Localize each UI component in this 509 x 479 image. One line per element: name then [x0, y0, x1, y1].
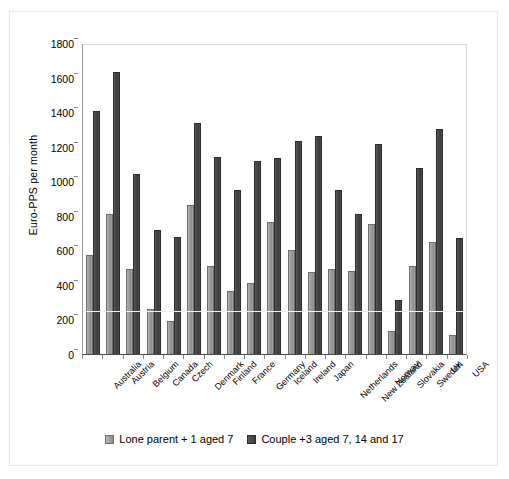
y-axis-tick-1600: 1600 — [51, 73, 74, 85]
bar-uk-series-2 — [436, 129, 443, 354]
x-tick-mark — [467, 355, 468, 359]
bar-group — [227, 45, 241, 354]
bar-group — [388, 45, 402, 354]
bar-canada-series-1 — [147, 309, 154, 354]
y-axis-tick-600: 600 — [56, 245, 74, 257]
bar-denmark-series-1 — [187, 205, 194, 354]
y-axis-tick-1400: 1400 — [51, 107, 74, 119]
gridline — [83, 311, 466, 312]
y-tick-mark — [74, 73, 78, 74]
y-tick-mark — [74, 38, 78, 39]
bar-austria-series-1 — [106, 214, 113, 354]
y-tick-mark — [74, 211, 78, 212]
bar-group — [207, 45, 221, 354]
y-tick-mark — [74, 280, 78, 281]
bar-finland-series-1 — [207, 266, 214, 354]
legend-label-2: Couple +3 aged 7, 14 and 17 — [261, 433, 403, 445]
bar-france-series-2 — [234, 190, 241, 354]
bar-group — [449, 45, 463, 354]
y-axis-tick-400: 400 — [56, 280, 74, 292]
bar-iceland-series-2 — [274, 158, 281, 354]
bar-group — [368, 45, 382, 354]
bar-finland-series-2 — [214, 157, 221, 354]
bar-group — [167, 45, 181, 354]
series-2-swatch — [247, 435, 256, 444]
bar-denmark-series-2 — [194, 123, 201, 354]
bar-slovakia-series-2 — [395, 300, 402, 354]
bar-iceland-series-1 — [267, 222, 274, 354]
bar-norway-series-2 — [375, 144, 382, 354]
y-tick-mark — [74, 314, 78, 315]
bar-ireland-series-1 — [288, 250, 295, 354]
y-axis-tick-1000: 1000 — [51, 176, 74, 188]
y-axis-tick-0: 0 — [68, 349, 74, 361]
bar-germany-series-2 — [254, 161, 261, 355]
bar-group — [187, 45, 201, 354]
y-axis-tick-1200: 1200 — [51, 142, 74, 154]
y-tick-mark — [74, 245, 78, 246]
x-axis-label-usa: USA — [471, 359, 491, 379]
y-tick-mark — [74, 176, 78, 177]
bar-group — [328, 45, 342, 354]
plot-area — [82, 44, 467, 355]
bar-slovakia-series-1 — [388, 331, 395, 354]
bar-belgium-series-2 — [133, 174, 140, 354]
bar-sweden-series-2 — [416, 168, 423, 354]
legend-label-1: Lone parent + 1 aged 7 — [119, 433, 233, 445]
plot-wrapper: Euro-PPS per month 180016001400120010008… — [10, 12, 499, 372]
y-axis-tick-200: 200 — [56, 314, 74, 326]
bar-ireland-series-2 — [295, 141, 302, 354]
bar-netherlands-series-2 — [335, 190, 342, 354]
bar-chart-figure: Euro-PPS per month 180016001400120010008… — [9, 11, 498, 466]
bar-norway-series-1 — [368, 224, 375, 354]
bar-groups — [83, 45, 466, 354]
bar-japan-series-2 — [315, 136, 322, 354]
y-tick-mark — [74, 107, 78, 108]
bar-group — [86, 45, 100, 354]
legend-item-1[interactable]: Lone parent + 1 aged 7 — [105, 433, 233, 445]
bar-usa-series-2 — [456, 238, 463, 354]
bar-new-zealand-series-1 — [348, 271, 355, 354]
bar-czech-series-2 — [174, 237, 181, 354]
y-axis-tick-800: 800 — [56, 211, 74, 223]
x-axis-category-labels: AustraliaAustriaBelgiumCanadaCzechDenmar… — [82, 359, 467, 421]
bar-australia-series-1 — [86, 255, 93, 354]
y-axis-tick-1800: 1800 — [51, 38, 74, 50]
bar-france-series-1 — [227, 291, 234, 354]
bar-czech-series-1 — [167, 321, 174, 354]
chart-legend: Lone parent + 1 aged 7Couple +3 aged 7, … — [10, 424, 499, 454]
bar-sweden-series-1 — [409, 266, 416, 354]
series-1-swatch — [105, 435, 114, 444]
bar-group — [247, 45, 261, 354]
legend-item-2[interactable]: Couple +3 aged 7, 14 and 17 — [247, 433, 403, 445]
bar-group — [308, 45, 322, 354]
bar-usa-series-1 — [449, 335, 456, 354]
y-tick-mark — [74, 142, 78, 143]
bar-germany-series-1 — [247, 283, 254, 354]
bar-group — [147, 45, 161, 354]
bar-group — [267, 45, 281, 354]
bar-group — [126, 45, 140, 354]
bar-group — [409, 45, 423, 354]
bar-group — [429, 45, 443, 354]
bar-japan-series-1 — [308, 272, 315, 354]
bar-group — [288, 45, 302, 354]
y-axis-tick-labels: 180016001400120010008006004002000 — [32, 44, 78, 355]
bar-group — [106, 45, 120, 354]
bar-canada-series-2 — [154, 230, 161, 354]
bar-group — [348, 45, 362, 354]
bar-australia-series-2 — [93, 111, 100, 354]
bar-new-zealand-series-2 — [355, 214, 362, 354]
bar-uk-series-1 — [429, 242, 436, 354]
y-tick-mark — [74, 349, 78, 350]
